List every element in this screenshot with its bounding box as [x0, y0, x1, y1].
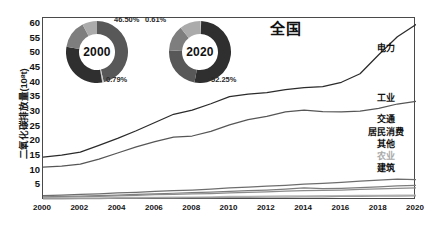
- x-tick-2002: 2002: [59, 203, 99, 212]
- donut-2000: 200046.50%0.79%: [66, 21, 128, 83]
- y-tick-30: 30: [18, 106, 40, 116]
- donut-2020-year: 2020: [169, 21, 231, 83]
- series-label-电力: 电力: [377, 41, 395, 54]
- x-tick-2008: 2008: [171, 203, 211, 212]
- x-axis-tick-labels: 2000200220042006200820102012201420162018…: [0, 203, 433, 223]
- donut-2000-pct-1: 46.50%: [114, 15, 139, 24]
- y-axis-tick-labels: 60555045403530252015105: [14, 0, 40, 231]
- y-tick-15: 15: [18, 150, 40, 160]
- x-tick-2012: 2012: [246, 203, 286, 212]
- series-label-交通: 交通: [377, 112, 395, 125]
- donut-2000-year: 2000: [66, 21, 128, 83]
- donut-2000-pct-2: 0.79%: [106, 75, 127, 84]
- series-label-建筑: 建筑: [377, 161, 395, 174]
- donut-2020-pct-2: 52.25%: [211, 75, 236, 84]
- y-tick-10: 10: [18, 165, 40, 175]
- y-tick-60: 60: [18, 18, 40, 28]
- donut-2020: 20200.61%52.25%: [169, 21, 231, 83]
- x-tick-2018: 2018: [358, 203, 398, 212]
- chart-title: 全国: [236, 17, 336, 38]
- series-line-工业: [43, 101, 416, 167]
- y-tick-35: 35: [18, 91, 40, 101]
- x-tick-2004: 2004: [97, 203, 137, 212]
- y-tick-50: 50: [18, 47, 40, 57]
- donut-2020-pct-1: 0.61%: [145, 15, 166, 24]
- x-tick-2006: 2006: [134, 203, 174, 212]
- x-tick-2000: 2000: [22, 203, 62, 212]
- y-tick-5: 5: [18, 179, 40, 189]
- y-tick-20: 20: [18, 135, 40, 145]
- y-tick-45: 45: [18, 62, 40, 72]
- x-tick-2016: 2016: [320, 203, 360, 212]
- x-tick-2020: 2020: [395, 203, 433, 212]
- co2-emissions-chart: 二氧化碳排放量(10⁸t) 60555045403530252015105 全国…: [0, 0, 433, 231]
- x-tick-2014: 2014: [283, 203, 323, 212]
- y-tick-55: 55: [18, 33, 40, 43]
- y-tick-25: 25: [18, 121, 40, 131]
- x-tick-2010: 2010: [209, 203, 249, 212]
- y-tick-40: 40: [18, 77, 40, 87]
- series-label-工业: 工业: [377, 91, 395, 104]
